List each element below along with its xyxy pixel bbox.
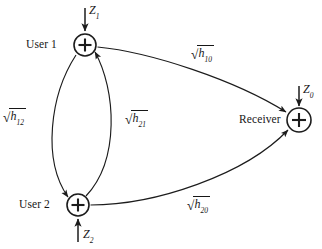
noise-label-z0-sub: 0 xyxy=(310,91,314,100)
edge-label-h20-radicand: h20 xyxy=(193,196,210,213)
noise-label-z1-base: Z xyxy=(89,3,96,17)
edge-label-h10: √h10 xyxy=(191,45,214,62)
noise-label-z2-base: Z xyxy=(83,227,90,241)
edge-label-h20: √h20 xyxy=(187,196,210,213)
node-label-receiver: Receiver xyxy=(239,114,281,126)
edge-label-h12-sub: 12 xyxy=(16,118,24,127)
noise-label-z2-sub: 2 xyxy=(90,236,94,245)
edge-h12 xyxy=(52,55,76,197)
diagram-canvas: User 1 User 2 Receiver Z1 Z2 Z0 √h10 √h2… xyxy=(0,0,322,249)
radical-sign-h12: √ xyxy=(3,111,10,125)
noise-label-z0-base: Z xyxy=(303,82,310,96)
noise-label-z1: Z1 xyxy=(89,4,99,19)
noise-label-z0: Z0 xyxy=(303,83,313,98)
node-label-user2: User 2 xyxy=(19,199,50,211)
radical-sign-h20: √ xyxy=(187,199,194,213)
edge-label-h10-radicand: h10 xyxy=(197,45,214,62)
edge-h21 xyxy=(86,52,111,196)
edge-label-h21-radicand: h21 xyxy=(131,110,148,127)
edge-label-h21: √h21 xyxy=(125,110,148,127)
node-label-user1: User 1 xyxy=(26,39,57,51)
edge-label-h20-sub: 20 xyxy=(200,206,208,215)
edge-label-h21-sub: 21 xyxy=(138,120,146,129)
edge-label-h12-radicand: h12 xyxy=(9,108,26,125)
noise-label-z2: Z2 xyxy=(83,228,93,243)
radical-sign-h10: √ xyxy=(191,48,198,62)
edge-label-h10-sub: 10 xyxy=(204,55,212,64)
edge-h20 xyxy=(91,130,289,205)
noise-label-z1-sub: 1 xyxy=(96,12,100,21)
radical-sign-h21: √ xyxy=(125,113,132,127)
edge-label-h12: √h12 xyxy=(3,108,26,125)
